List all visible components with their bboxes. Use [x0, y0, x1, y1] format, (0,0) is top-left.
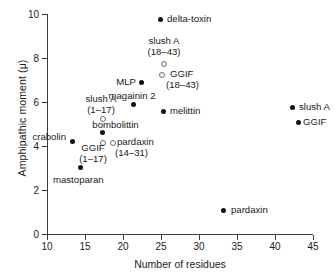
x-tick-20 [123, 235, 124, 240]
x-tick-15 [85, 235, 86, 240]
point-magainin-2 [131, 102, 136, 107]
label-delta-toxin: delta-toxin [167, 13, 211, 24]
label-pardaxin-14-31-line1: pardaxin [117, 136, 154, 147]
x-tick-35 [237, 235, 238, 240]
label-pardaxin: pardaxin [231, 204, 268, 215]
y-axis-line [47, 14, 48, 235]
x-tick-45 [313, 235, 314, 240]
x-tick-label-45: 45 [298, 241, 328, 252]
label-slush-a-1-17-line1: slush A [71, 93, 131, 104]
label-slush-a-18-43-line2: (18–43) [133, 46, 195, 57]
scatter-plot-figure: 0 2 4 6 8 10 10 15 20 25 30 35 40 45 Amp… [0, 0, 335, 277]
point-slush-a [290, 105, 295, 110]
x-axis-line [47, 234, 313, 235]
label-ggif: GGIF [303, 116, 326, 127]
label-melittin: melittin [170, 105, 200, 116]
label-crabolin: crabolin [14, 131, 66, 142]
x-axis-label: Number of residues [47, 258, 313, 270]
y-axis-label: Amphipathic moment (μ) [16, 33, 28, 203]
point-slush-a-18-43 [161, 61, 167, 67]
y-tick-4 [42, 146, 47, 147]
point-mastoparan [78, 165, 83, 170]
label-mlp: MLP [98, 76, 136, 87]
y-tick-8 [42, 58, 47, 59]
x-tick-label-25: 25 [146, 241, 176, 252]
point-ggif [296, 120, 301, 125]
label-ggif-1-17-line2: (1–17) [68, 153, 118, 164]
x-tick-label-15: 15 [70, 241, 100, 252]
point-mlp [139, 80, 144, 85]
x-tick-label-20: 20 [108, 241, 138, 252]
point-delta-toxin [158, 17, 163, 22]
label-pardaxin-14-31-line2: (14–31) [115, 147, 148, 158]
label-slush-a: slush A [299, 101, 330, 112]
label-ggif-18-43-line2: (18–43) [166, 79, 199, 90]
point-bombolittin [100, 130, 105, 135]
y-tick-label-10: 10 [17, 9, 39, 20]
y-tick-10 [42, 14, 47, 15]
label-ggif-1-17-line1: GGIF [68, 142, 118, 153]
y-tick-label-0: 0 [17, 229, 39, 240]
point-ggif-18-43 [159, 72, 165, 78]
x-tick-label-10: 10 [32, 241, 62, 252]
point-pardaxin [221, 208, 226, 213]
label-slush-a-1-17-line2: (1–17) [71, 104, 131, 115]
point-melittin [161, 109, 166, 114]
label-bombolittin: bombolittin [73, 119, 158, 130]
x-tick-30 [199, 235, 200, 240]
x-tick-10 [47, 235, 48, 240]
x-tick-label-35: 35 [222, 241, 252, 252]
x-tick-25 [161, 235, 162, 240]
y-tick-2 [42, 190, 47, 191]
x-tick-label-40: 40 [260, 241, 290, 252]
label-mastoparan: mastoparan [53, 174, 104, 185]
label-ggif-18-43-line1: GGIF [170, 68, 193, 79]
y-tick-6 [42, 102, 47, 103]
x-tick-40 [275, 235, 276, 240]
x-tick-label-30: 30 [184, 241, 214, 252]
label-slush-a-18-43-line1: slush A [133, 35, 195, 46]
